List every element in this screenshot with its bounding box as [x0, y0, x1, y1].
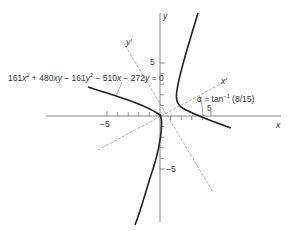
- angle-func: = tan: [202, 94, 224, 104]
- equation-label: 161x2 + 480xy − 161y2 − 510x − 272y = 0: [8, 74, 164, 83]
- hyperbola-branch-left: [88, 87, 162, 225]
- x-axis-ticks: [107, 111, 211, 120]
- y-prime-label: y′: [126, 38, 132, 47]
- y-tick-pos5: 5: [150, 58, 155, 67]
- eq-rhs: = 0: [149, 73, 163, 83]
- x-tick-pos5: 5: [207, 104, 212, 113]
- angle-label: α = tan−1 (8/15): [197, 95, 254, 104]
- hyperbola-branch-right: [176, 13, 231, 128]
- y-axis-label: y: [163, 12, 167, 21]
- eq-term-3: − 161: [62, 73, 86, 83]
- figure-graphics: [0, 0, 290, 231]
- x-axis-label: x: [276, 121, 280, 130]
- x-tick-neg5: −5: [100, 120, 110, 129]
- x-prime-label: x′: [221, 77, 227, 86]
- eq-term-4: − 510: [93, 73, 117, 83]
- eq-coef-1: 161: [8, 73, 22, 83]
- eq-term-2: + 480: [30, 73, 54, 83]
- hyperbola-figure: 161x2 + 480xy − 161y2 − 510x − 272y = 0 …: [0, 0, 290, 231]
- equation-leader: [116, 82, 122, 96]
- eq-term-5: − 272: [121, 73, 145, 83]
- y-tick-neg5: −5: [166, 165, 176, 174]
- eq-var-xy: xy: [53, 73, 62, 83]
- angle-arg: (8/15): [230, 94, 255, 104]
